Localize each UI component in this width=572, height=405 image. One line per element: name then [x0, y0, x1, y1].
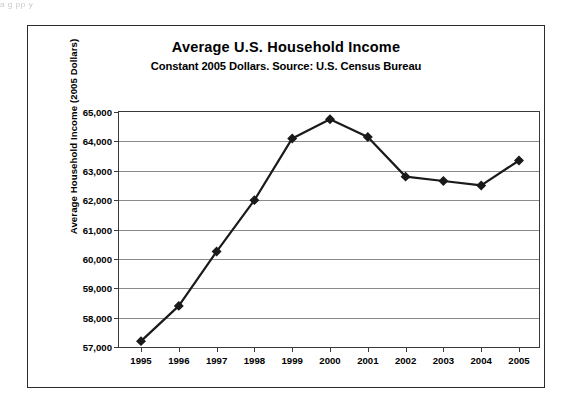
x-tick-label: 2005	[508, 355, 529, 366]
chart-title: Average U.S. Household Income	[28, 39, 544, 55]
x-tick-mark	[481, 347, 482, 352]
data-point-marker	[326, 115, 334, 123]
series-line	[141, 119, 519, 341]
y-tick-label: 59,000	[83, 283, 112, 294]
x-tick-label: 2004	[471, 355, 492, 366]
x-tick-mark	[217, 347, 218, 352]
x-tick-mark	[368, 347, 369, 352]
x-tick-mark	[443, 347, 444, 352]
x-tick-label: 1999	[282, 355, 303, 366]
y-tick-label: 57,000	[83, 342, 112, 353]
x-tick-mark	[141, 347, 142, 352]
x-tick-label: 2000	[319, 355, 340, 366]
x-tick-label: 1995	[130, 355, 151, 366]
y-tick-label: 64,000	[83, 136, 112, 147]
y-tick-label: 58,000	[83, 312, 112, 323]
income-line-series	[119, 112, 539, 347]
y-tick-label: 61,000	[83, 224, 112, 235]
y-tick-label: 60,000	[83, 253, 112, 264]
x-tick-mark	[179, 347, 180, 352]
x-tick-mark	[292, 347, 293, 352]
chart-figure-frame: Average U.S. Household Income Constant 2…	[27, 25, 545, 388]
y-tick-label: 63,000	[83, 165, 112, 176]
chart-subtitle: Constant 2005 Dollars. Source: U.S. Cens…	[28, 60, 544, 72]
x-tick-label: 2003	[433, 355, 454, 366]
x-tick-mark	[519, 347, 520, 352]
scan-artifact-text: a g pp y	[0, 0, 572, 14]
data-point-marker	[439, 177, 447, 185]
y-tick-label: 62,000	[83, 195, 112, 206]
x-tick-label: 1998	[244, 355, 265, 366]
x-tick-mark	[330, 347, 331, 352]
y-tick-label: 65,000	[83, 107, 112, 118]
plot-area: 65,00064,00063,00062,00061,00060,00059,0…	[118, 111, 540, 348]
x-tick-label: 1997	[206, 355, 227, 366]
y-axis-title: Average Household Income (2005 Dollars)	[68, 22, 79, 252]
x-tick-label: 2001	[357, 355, 378, 366]
x-tick-mark	[406, 347, 407, 352]
x-tick-label: 2002	[395, 355, 416, 366]
y-tick-mark	[114, 347, 119, 348]
x-tick-label: 1996	[168, 355, 189, 366]
x-tick-mark	[254, 347, 255, 352]
